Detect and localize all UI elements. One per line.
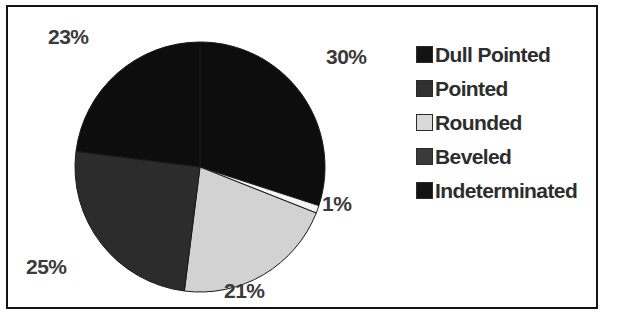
legend-label: Pointed	[435, 78, 508, 99]
legend-item-rounded: Rounded	[416, 105, 606, 139]
legend-item-beveled: Beveled	[416, 139, 606, 173]
legend-label: Indeterminated	[435, 180, 577, 201]
legend-item-pointed: Pointed	[416, 71, 606, 105]
legend-label: Beveled	[435, 146, 511, 167]
data-label-dull-pointed: 30%	[326, 45, 367, 69]
legend-item-dull-pointed: Dull Pointed	[416, 37, 606, 71]
data-label-rounded: 21%	[224, 279, 265, 303]
legend-swatch-icon	[416, 80, 433, 97]
pie-slice-pointed	[75, 151, 200, 291]
legend-swatch-icon	[416, 182, 433, 199]
legend-swatch-icon	[416, 114, 433, 131]
legend-swatch-icon	[416, 46, 433, 63]
chart-legend: Dull PointedPointedRoundedBeveledIndeter…	[416, 37, 606, 207]
pie-chart-figure: 23% 30% 1% 21% 25% Dull PointedPointedRo…	[0, 0, 624, 313]
legend-swatch-icon	[416, 148, 433, 165]
data-label-beveled: 1%	[322, 192, 351, 216]
data-label-indeterminated: 23%	[48, 25, 89, 49]
figure-frame: 23% 30% 1% 21% 25% Dull PointedPointedRo…	[6, 5, 598, 309]
pie-slice-indeterminated	[76, 42, 200, 167]
legend-label: Dull Pointed	[435, 44, 550, 65]
data-label-pointed: 25%	[26, 255, 67, 279]
legend-label: Rounded	[435, 112, 522, 133]
legend-item-indeterminated: Indeterminated	[416, 173, 606, 207]
pie-slice-group	[75, 42, 325, 292]
pie-plot-area: 23% 30% 1% 21% 25%	[8, 7, 408, 313]
